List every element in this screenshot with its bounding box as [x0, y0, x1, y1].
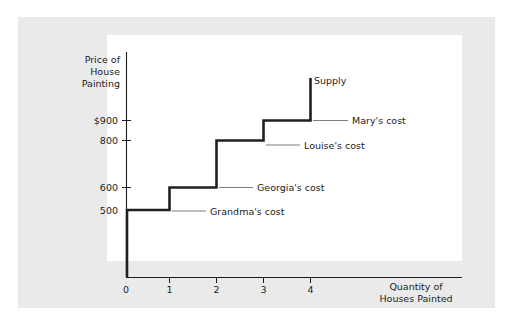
x-axis-title-line-1: Quantity of: [389, 281, 443, 292]
y-axis-title-line-3: Painting: [82, 78, 120, 89]
x-tick-label-1: 1: [166, 284, 172, 295]
x-tick-label-0: 0: [123, 284, 129, 295]
annotation-mary-cost: Mary's cost: [352, 115, 406, 126]
x-tick-label-2: 2: [213, 284, 219, 295]
y-tick-label-900: $900: [94, 115, 118, 126]
annotation-supply: Supply: [314, 75, 347, 86]
figure-root: Price of House Painting $900 800 600 500…: [0, 0, 513, 330]
annotation-louise-cost: Louise's cost: [304, 140, 365, 151]
annotation-georgia-cost: Georgia's cost: [257, 182, 325, 193]
x-tick-label-4: 4: [307, 284, 313, 295]
y-axis-title-line-2: House: [90, 66, 120, 77]
supply-curve-chart: Price of House Painting $900 800 600 500…: [0, 0, 513, 330]
annotation-grandma-cost: Grandma's cost: [210, 206, 285, 217]
y-axis-title-line-1: Price of: [85, 54, 121, 65]
y-tick-label-800: 800: [100, 135, 118, 146]
x-tick-label-3: 3: [260, 284, 266, 295]
supply-step-curve: [127, 78, 311, 277]
y-tick-label-500: 500: [100, 205, 118, 216]
x-axis-title-line-2: Houses Painted: [379, 293, 452, 304]
y-tick-label-600: 600: [100, 182, 118, 193]
